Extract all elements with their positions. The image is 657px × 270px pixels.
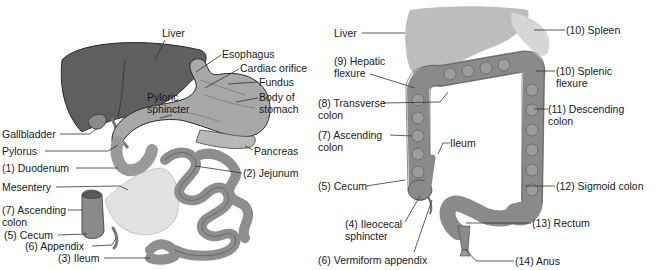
label-line: flexure	[556, 77, 612, 89]
label-line: (8) Transverse	[318, 97, 386, 109]
label-line: Pancreas	[254, 145, 298, 157]
label-line: (5) Cecum	[318, 180, 367, 192]
label-line: colon	[2, 216, 66, 228]
right-panel-label-liver: Liver	[334, 27, 357, 39]
right-panel-label-hepatic-flexure: (9) Hepaticflexure	[334, 55, 385, 79]
label-line: (10) Spleen	[566, 24, 620, 36]
left-panel-label-gallbladder: Gallbladder	[2, 128, 56, 140]
right-panel-label-descending-colon: (11) Descendingcolon	[548, 103, 624, 127]
right-panel-label-rectum: (13) Rectum	[532, 217, 590, 229]
label-line: (4) Ileocecal	[345, 218, 402, 230]
label-line: (2) Jejunum	[243, 167, 298, 179]
label-line: (7) Ascending	[2, 204, 66, 216]
right-panel-label-sigmoid-colon: (12) Sigmoid colon	[556, 180, 644, 192]
label-line: (1) Duodenum	[2, 162, 69, 174]
left-panel-label-pyloric-sphincter: Pyloricsphincter	[147, 91, 190, 115]
spleen-shape	[511, 12, 549, 56]
left-panel-label-duodenum: (1) Duodenum	[2, 162, 69, 174]
label-line: colon	[548, 115, 624, 127]
label-line: Liver	[334, 27, 357, 39]
label-line: (10) Splenic	[556, 65, 612, 77]
left-panel-label-esophagus: Esophagus	[222, 48, 275, 60]
label-line: (7) Ascending	[318, 129, 382, 141]
duodenum-shape	[116, 142, 152, 170]
label-line: Mesentery	[2, 181, 51, 193]
left-panel-label-body-of-stomach: Body ofstomach	[259, 91, 299, 115]
label-line: Pylorus	[2, 145, 37, 157]
label-line: (14) Anus	[515, 255, 560, 267]
label-line: (9) Hepatic	[334, 55, 385, 67]
label-line: Body of	[259, 91, 299, 103]
label-line: Fundus	[259, 76, 294, 88]
label-line: colon	[318, 109, 386, 121]
right-panel-label-anus: (14) Anus	[515, 255, 560, 267]
label-line: Cardiac orifice	[240, 62, 307, 74]
left-panel-label-jejunum: (2) Jejunum	[243, 167, 298, 179]
left-panel-label-fundus: Fundus	[259, 76, 294, 88]
rectum-shape	[458, 226, 470, 250]
label-line: sphincter	[147, 103, 190, 115]
left-panel-label-cardiac-orifice: Cardiac orifice	[240, 62, 307, 74]
left-appendix-shape	[113, 228, 117, 248]
left-panel-label-ascending-colon: (7) Ascendingcolon	[2, 204, 66, 228]
label-line: sphincter	[345, 230, 402, 242]
label-line: (3) Ileum	[58, 252, 99, 264]
left-panel-label-pylorus: Pylorus	[2, 145, 37, 157]
right-panel-label-vermiform-appendix: (6) Vermiform appendix	[318, 254, 427, 266]
right-panel-label-ileocecal-sphincter: (4) Ileocecalsphincter	[345, 218, 402, 242]
mesentery-shape	[105, 168, 178, 235]
label-line: Pyloric	[147, 91, 190, 103]
left-panel-label-mesentery: Mesentery	[2, 181, 51, 193]
label-line: Liver	[162, 27, 185, 39]
label-line: Gallbladder	[2, 128, 56, 140]
left-panel-label-ileum: (3) Ileum	[58, 252, 99, 264]
left-panel-label-pancreas: Pancreas	[254, 145, 298, 157]
colon-frame	[418, 62, 534, 215]
label-line: (11) Descending	[548, 103, 624, 115]
label-line: (13) Rectum	[532, 217, 590, 229]
right-panel-label-splenic-flexure: (10) Splenicflexure	[556, 65, 612, 89]
label-line: (12) Sigmoid colon	[556, 180, 644, 192]
right-ileum-shape	[428, 158, 432, 186]
label-line: colon	[318, 141, 382, 153]
label-line: stomach	[259, 103, 299, 115]
right-panel-label-ascending-colon: (7) Ascendingcolon	[318, 129, 382, 153]
left-panel-label-appendix: (6) Appendix	[25, 240, 84, 252]
left-panel-label-liver: Liver	[162, 27, 185, 39]
right-panel-label-spleen: (10) Spleen	[566, 24, 620, 36]
label-line: Ileum	[450, 137, 476, 149]
right-panel-label-ileum: Ileum	[450, 137, 476, 149]
label-line: (6) Appendix	[25, 240, 84, 252]
label-line: (6) Vermiform appendix	[318, 254, 427, 266]
label-line: Esophagus	[222, 48, 275, 60]
label-line: flexure	[334, 67, 385, 79]
right-panel-label-transverse-colon: (8) Transversecolon	[318, 97, 386, 121]
right-panel-label-cecum: (5) Cecum	[318, 180, 367, 192]
